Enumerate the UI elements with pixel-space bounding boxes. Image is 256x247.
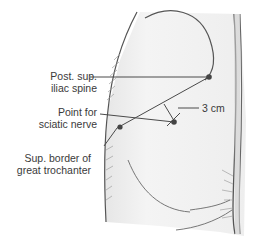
trochanter-point: [117, 124, 122, 129]
label-psis: Post. sup. iliac spine: [50, 70, 97, 94]
label-trochanter: Sup. border of great trochanter: [17, 152, 91, 176]
psis-point: [206, 74, 212, 80]
label-distance: 3 cm: [202, 102, 225, 114]
sciatic-point: [171, 119, 177, 125]
label-sciatic-point: Point for sciatic nerve: [39, 106, 97, 130]
